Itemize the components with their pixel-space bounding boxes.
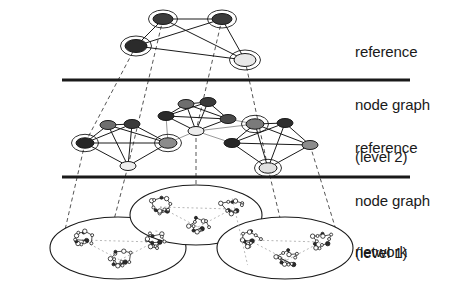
network-ellipse-right — [217, 217, 353, 279]
motif-node — [112, 263, 115, 266]
motif-node — [282, 251, 285, 254]
level2-node-L2a — [149, 10, 178, 28]
motif-node — [114, 250, 117, 253]
label-level2-line1: reference — [355, 43, 430, 61]
motif-node — [158, 240, 162, 244]
motif-node — [245, 244, 249, 248]
motif-node — [193, 220, 196, 223]
motif-node — [163, 240, 166, 243]
level1-cluster-right — [224, 115, 318, 176]
motif-node — [129, 251, 132, 254]
motif-node — [321, 234, 325, 238]
level1-edge — [232, 143, 310, 145]
motif-node — [187, 224, 191, 228]
projection-line-l2-l1 — [196, 19, 222, 131]
motif-node — [164, 196, 168, 200]
motif-node — [226, 209, 229, 212]
node-body — [277, 119, 293, 128]
node-body — [125, 40, 147, 53]
motif-node — [90, 242, 93, 245]
motif-node — [153, 199, 156, 202]
level1-node-A2 — [124, 120, 140, 129]
network-ellipse-right-outline — [217, 217, 353, 279]
motif-node — [123, 260, 127, 264]
node-body — [100, 121, 116, 130]
motif-node — [148, 232, 151, 235]
node-body — [259, 163, 277, 173]
motif-node — [77, 231, 80, 234]
level1-node-C3 — [224, 139, 240, 148]
motif-node — [290, 262, 293, 265]
level1-edge — [108, 125, 128, 166]
motif-node — [91, 234, 94, 237]
level1-edges — [85, 124, 168, 166]
motif-node — [314, 246, 318, 250]
level1-cluster-middle — [158, 98, 236, 136]
motif-node — [287, 263, 290, 266]
motif-node — [154, 209, 157, 212]
node-body — [234, 54, 256, 67]
node-body — [76, 138, 94, 148]
level1-reference-node-graph — [72, 98, 319, 177]
motif-node — [278, 256, 281, 259]
motif-node — [259, 238, 262, 241]
motif-node — [315, 240, 318, 243]
level1-node-B2 — [200, 98, 216, 107]
motif-node — [242, 232, 245, 235]
motif-node — [233, 199, 237, 203]
motif-node — [330, 233, 333, 236]
motif-node — [158, 209, 162, 213]
node-body — [188, 127, 204, 136]
motif-node — [247, 230, 251, 234]
level1-node-B5 — [188, 127, 204, 136]
node-body — [212, 14, 232, 25]
motif-node — [151, 241, 154, 244]
level1-node-A1 — [100, 121, 116, 130]
motif-node — [156, 247, 159, 250]
motif-node — [83, 229, 87, 233]
level1-node-A3 — [72, 134, 99, 151]
motif-node — [280, 261, 283, 264]
node-body — [124, 120, 140, 129]
motif-node — [205, 220, 208, 223]
level1-node-C5 — [255, 159, 282, 176]
label-level1-line1: reference — [355, 139, 430, 157]
level1-node-B3 — [158, 112, 174, 121]
motif-node — [254, 234, 257, 237]
motif-node — [328, 238, 331, 241]
motif-node — [160, 235, 163, 238]
level1-edge — [128, 124, 132, 166]
motif-node — [320, 243, 323, 246]
motif-node — [145, 237, 149, 241]
level1-node-B1 — [178, 100, 194, 109]
level1-edges — [232, 123, 310, 168]
motif-node — [192, 225, 195, 228]
motif-node — [219, 201, 223, 205]
motif-node — [316, 234, 319, 237]
label-level1-line2: node graph — [355, 192, 430, 210]
level1-nodes — [224, 115, 318, 176]
motif-node — [163, 208, 166, 211]
projection-line-l2-l1 — [245, 60, 268, 168]
hierarchical-graph-diagram: reference node graph (level 2) reference… — [0, 0, 474, 290]
motif-node — [287, 252, 291, 256]
level1-cluster-left — [72, 120, 182, 171]
motif-node — [167, 208, 170, 211]
motif-node — [160, 196, 163, 199]
motif-node — [83, 241, 86, 244]
motif-node — [249, 241, 252, 244]
motif-node — [326, 241, 330, 245]
motif-node — [148, 244, 152, 248]
motif-node — [108, 257, 112, 261]
motif-node — [122, 249, 126, 253]
motif-node — [74, 238, 77, 241]
level2-reference-node-graph — [121, 10, 261, 70]
label-level0-line1: network — [355, 243, 407, 261]
node-body — [246, 119, 264, 129]
node-body — [200, 98, 216, 107]
level2-node-L2b — [208, 10, 237, 28]
motif-node — [240, 238, 244, 242]
node-body — [158, 112, 174, 121]
motif-node — [192, 229, 195, 232]
motif-node — [195, 230, 199, 234]
